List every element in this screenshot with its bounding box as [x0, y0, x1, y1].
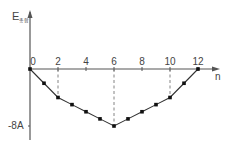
energy-chart: 024681012 E 총합 n -8A: [0, 0, 236, 152]
data-point-marker: [70, 103, 74, 107]
data-point-marker: [154, 103, 158, 107]
data-point-marker: [28, 67, 32, 71]
data-point-marker: [168, 96, 172, 100]
data-point-marker: [98, 117, 102, 121]
x-axis-label: n: [215, 71, 221, 82]
y-axis-label-subscript: 총합: [19, 17, 29, 23]
x-tick-label: 8: [139, 56, 145, 67]
y-tick-min: -8A: [8, 120, 24, 131]
data-point-marker: [182, 81, 186, 85]
x-tick-label: 0: [30, 56, 36, 67]
dashed-guides: [58, 69, 170, 126]
data-point-marker: [196, 67, 200, 71]
x-tick-label: 10: [164, 56, 176, 67]
data-point-marker: [56, 96, 60, 100]
data-point-marker: [42, 81, 46, 85]
data-point-marker: [84, 110, 88, 114]
x-tick-label: 4: [83, 56, 89, 67]
data-point-marker: [112, 124, 116, 128]
data-point-marker: [126, 117, 130, 121]
x-tick-label: 6: [111, 56, 117, 67]
data-point-marker: [140, 110, 144, 114]
x-tick-label: 12: [192, 56, 204, 67]
x-tick-label: 2: [55, 56, 61, 67]
